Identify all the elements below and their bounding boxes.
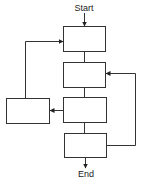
- edge-left-box-to-box1: [26, 42, 64, 99]
- process-box-4: [65, 134, 107, 158]
- start-label: Start: [64, 3, 104, 13]
- process-box-3: [64, 98, 107, 123]
- flowchart-diagram: [0, 0, 145, 185]
- process-box-left: [7, 99, 50, 124]
- edge-box4-to-box2: [106, 74, 136, 146]
- end-label: End: [66, 169, 106, 179]
- process-box-1: [64, 27, 106, 52]
- process-box-2: [64, 63, 106, 88]
